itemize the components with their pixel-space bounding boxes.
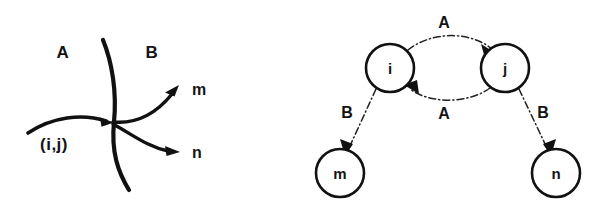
outgoing-label-n: n [192, 144, 202, 161]
edge-label-a-top: A [438, 14, 450, 31]
node-i-label: i [388, 60, 392, 77]
figure-background [0, 0, 607, 207]
edge-label-b-right: B [537, 104, 549, 121]
node-m-label: m [333, 165, 346, 182]
figure-canvas: A B (i,j) m n i j m [0, 0, 607, 207]
outgoing-label-m: m [192, 81, 206, 98]
incoming-edge-label: (i,j) [40, 135, 68, 154]
region-label-a: A [57, 43, 70, 62]
region-label-b: B [146, 43, 159, 62]
node-j-label: j [502, 60, 507, 77]
edge-label-b-left: B [341, 104, 353, 121]
edge-label-a-bottom: A [438, 105, 450, 122]
node-n-label: n [551, 165, 560, 182]
figure-svg: A B (i,j) m n i j m [0, 0, 607, 207]
